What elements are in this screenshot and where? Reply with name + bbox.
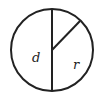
radius-line: [52, 21, 80, 50]
circle-diagram: d r: [0, 0, 98, 101]
diameter-label: d: [32, 50, 40, 65]
radius-label: r: [73, 57, 80, 72]
